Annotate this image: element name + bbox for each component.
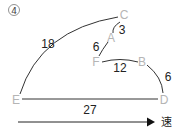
edge-label-ca: 3 <box>119 23 126 37</box>
arrow-head-icon <box>147 118 155 127</box>
diagram-canvas: 4 C A F B D E 18 3 6 12 6 27 速 <box>0 0 178 134</box>
point-f: F <box>92 55 99 69</box>
figure-number: 4 <box>11 6 17 16</box>
point-a: A <box>107 31 115 45</box>
edge-label-fb: 12 <box>113 61 127 75</box>
edge-ec <box>20 17 118 94</box>
edge-label-ed: 27 <box>83 103 97 117</box>
point-c: C <box>120 8 129 22</box>
edge-label-ec: 18 <box>41 37 55 51</box>
edge-bd <box>147 65 163 93</box>
point-e: E <box>12 93 20 107</box>
point-d: D <box>160 93 169 107</box>
edge-label-af: 6 <box>93 40 100 54</box>
edge-label-bd: 6 <box>165 70 172 84</box>
arrow-label: 速 <box>161 116 172 129</box>
point-b: B <box>138 55 146 69</box>
